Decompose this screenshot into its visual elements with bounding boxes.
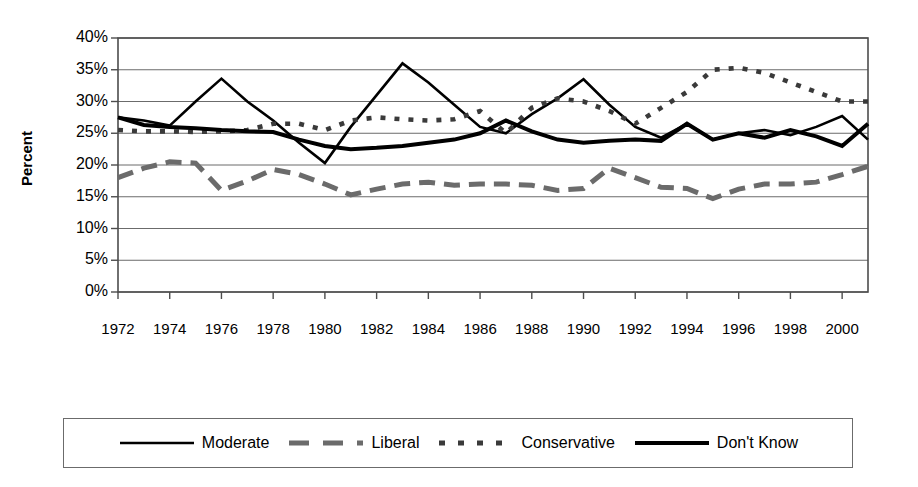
series-line-moderate xyxy=(118,63,868,163)
y-axis-tick-label: 35% xyxy=(52,61,108,77)
y-axis-tick-label: 15% xyxy=(52,188,108,204)
y-axis-tick-label: 25% xyxy=(52,124,108,140)
legend-item-label: Liberal xyxy=(371,434,419,452)
chart-figure: Percent 40%35%30%25%20%15%10%5%0% 197219… xyxy=(0,0,918,487)
legend: ModerateLiberalConservativeDon't Know xyxy=(63,418,853,468)
legend-item-label: Moderate xyxy=(202,434,270,452)
legend-item-conservative: Conservative xyxy=(428,434,623,452)
legend-item-label: Conservative xyxy=(521,434,614,452)
y-axis-tick-label: 30% xyxy=(52,93,108,109)
x-axis-tick-label: 2000 xyxy=(812,321,872,337)
y-axis-tick-label: 20% xyxy=(52,156,108,172)
legend-item-moderate: Moderate xyxy=(109,434,279,452)
y-axis-tick-label: 10% xyxy=(52,220,108,236)
y-axis-tick-label: 5% xyxy=(52,251,108,267)
legend-item-liberal: Liberal xyxy=(278,434,428,452)
plot-area xyxy=(0,0,918,487)
dashed-line-icon xyxy=(287,436,365,450)
series-line-liberal xyxy=(118,162,868,199)
solid-thick-line-icon xyxy=(633,436,711,450)
y-axis-title: Percent xyxy=(18,119,35,199)
solid-thin-line-icon xyxy=(118,436,196,450)
legend-item-don-t-know: Don't Know xyxy=(624,434,807,452)
dotted-line-icon xyxy=(437,436,515,450)
legend-items: ModerateLiberalConservativeDon't Know xyxy=(64,419,852,467)
series-line-conservative xyxy=(118,68,868,133)
y-axis-tick-label: 40% xyxy=(52,29,108,45)
legend-item-label: Don't Know xyxy=(717,434,798,452)
y-axis-tick-label: 0% xyxy=(52,283,108,299)
